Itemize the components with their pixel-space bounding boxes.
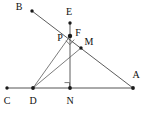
label-point-D: D bbox=[29, 96, 36, 106]
geometry-figure: B E P F M C D N A bbox=[0, 0, 146, 113]
label-point-M: M bbox=[85, 37, 94, 47]
point-N bbox=[68, 86, 72, 90]
point-A bbox=[131, 86, 135, 90]
label-point-F: F bbox=[75, 28, 81, 38]
point-P-F bbox=[68, 34, 72, 38]
point-B bbox=[30, 9, 33, 12]
label-point-E: E bbox=[66, 7, 72, 17]
point-M bbox=[79, 46, 82, 49]
label-point-P: P bbox=[57, 33, 63, 43]
point-C bbox=[5, 86, 8, 89]
label-point-A: A bbox=[132, 70, 139, 80]
point-D bbox=[31, 86, 35, 90]
label-point-C: C bbox=[4, 96, 11, 106]
label-point-B: B bbox=[16, 2, 23, 12]
point-E bbox=[68, 21, 71, 24]
label-point-N: N bbox=[66, 96, 73, 106]
